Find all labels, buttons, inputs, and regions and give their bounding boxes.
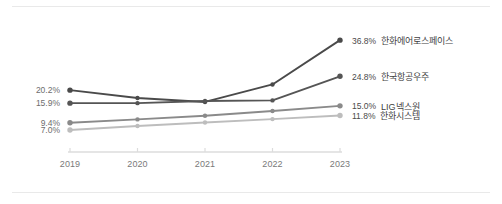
legend-series-name: 한국항공우주 — [381, 70, 429, 83]
x-tick-label-2020: 2020 — [118, 159, 158, 169]
plot-area — [0, 0, 502, 204]
data-point-marker — [270, 109, 274, 113]
data-point-marker — [270, 82, 274, 86]
legend-value: 24.8% — [352, 71, 376, 81]
start-value-label: 7.0% — [41, 125, 60, 135]
legend-value: 11.8% — [352, 110, 375, 120]
legend-series-name: 한화에어로스페이스 — [381, 34, 453, 47]
x-axis-layer — [68, 148, 342, 152]
data-point-marker — [203, 114, 207, 118]
data-point-marker — [67, 87, 72, 92]
x-tick-label-2023: 2023 — [320, 159, 360, 169]
data-point-marker — [337, 103, 342, 108]
data-point-marker — [67, 100, 72, 105]
legend-item-1[interactable]: 24.8%한국항공우주 — [352, 70, 429, 83]
start-value-label: 20.2% — [36, 85, 60, 95]
series-line — [70, 40, 340, 102]
legend-item-0[interactable]: 36.8%한화에어로스페이스 — [352, 34, 453, 47]
x-tick-label-2021: 2021 — [185, 159, 225, 169]
line-chart: 20.2%15.9%9.4%7.0% 20192020202120222023 … — [0, 0, 502, 204]
data-point-marker — [135, 117, 139, 121]
data-point-marker — [337, 113, 342, 118]
data-point-marker — [337, 37, 342, 42]
x-tick-label-2019: 2019 — [50, 159, 90, 169]
legend-series-name: 한화시스템 — [380, 109, 420, 122]
data-point-marker — [67, 120, 72, 125]
start-value-label: 15.9% — [36, 98, 60, 108]
data-point-marker — [135, 101, 139, 105]
data-point-marker — [135, 96, 139, 100]
data-point-marker — [135, 124, 139, 128]
data-point-marker — [337, 74, 342, 79]
data-point-marker — [270, 117, 274, 121]
series-layer — [67, 37, 342, 132]
data-point-marker — [270, 98, 274, 102]
data-point-marker — [203, 99, 207, 103]
legend-value: 36.8% — [352, 35, 376, 45]
x-tick-label-2022: 2022 — [253, 159, 293, 169]
data-point-marker — [203, 120, 207, 124]
legend-item-3[interactable]: 11.8%한화시스템 — [352, 109, 420, 122]
data-point-marker — [67, 127, 72, 132]
